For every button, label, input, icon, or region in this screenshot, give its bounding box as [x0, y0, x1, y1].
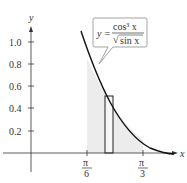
x-tick-label-pi-over-3-den: 3: [140, 168, 145, 179]
y-tick-label: 1.0: [9, 37, 22, 48]
y-axis-arrow-icon: [29, 26, 33, 32]
y-tick-label: 0.8: [9, 59, 22, 70]
y-tick-label: 0.4: [9, 103, 22, 114]
x-tick-label-pi-over-6-den: 6: [84, 168, 89, 179]
chart: x y 1.0 0.8 0.6 0.4 0.2 π 6 π 3 y = cos³…: [0, 0, 187, 183]
y-axis-label: y: [28, 12, 34, 23]
equation-root-sign: √: [113, 34, 119, 45]
equation-denominator: sin x: [120, 35, 139, 46]
y-tick-label: 0.2: [9, 126, 22, 137]
equation-lhs: y =: [96, 28, 111, 39]
x-axis-label: x: [179, 148, 185, 159]
x-tick-label-pi-over-6-num: π: [83, 157, 88, 168]
shaded-area: [87, 58, 143, 153]
equation-numerator: cos³ x: [113, 21, 137, 32]
y-tick-label: 0.6: [9, 81, 22, 92]
x-tick-label-pi-over-3-num: π: [139, 157, 144, 168]
